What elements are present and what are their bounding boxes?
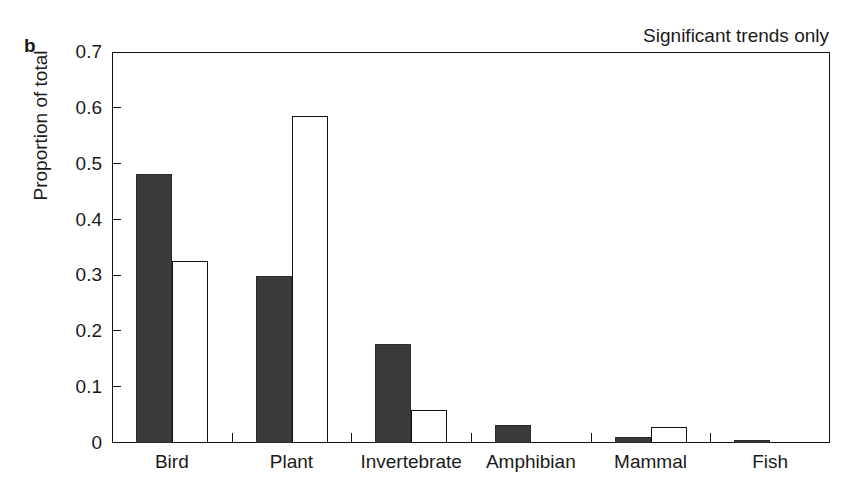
bar-invertebrate-filled	[375, 344, 411, 443]
x-axis-category-label: Amphibian	[486, 452, 576, 471]
chart-title: Significant trends only	[643, 26, 829, 45]
bar-plant-filled	[256, 276, 292, 443]
y-axis-tick-label: 0.2	[42, 321, 102, 340]
x-axis-category-label: Mammal	[614, 452, 687, 471]
x-axis-category-label: Bird	[155, 452, 189, 471]
bar-plant-open	[292, 116, 328, 443]
y-axis-tick-label: 0	[42, 433, 102, 452]
bar-mammal-open	[651, 427, 687, 443]
bar-bird-open	[172, 261, 208, 443]
x-axis-category-label: Fish	[752, 452, 788, 471]
bar-mammal-filled	[615, 437, 651, 443]
y-axis-tick-label: 0.5	[42, 154, 102, 173]
figure-panel-b: b Significant trends only Proportion of …	[0, 0, 859, 492]
bar-amphibian-filled	[495, 425, 531, 443]
y-axis-tick-label: 0.7	[42, 42, 102, 61]
y-axis-tick-label: 0.4	[42, 210, 102, 229]
y-axis-tick-label: 0.6	[42, 98, 102, 117]
bar-bird-filled	[136, 174, 172, 443]
y-axis-tick-label: 0.1	[42, 377, 102, 396]
x-axis-category-label: Plant	[270, 452, 313, 471]
bar-invertebrate-open	[411, 410, 447, 443]
x-axis-category-label: Invertebrate	[360, 452, 461, 471]
bar-fish-filled	[734, 440, 770, 443]
y-axis-tick-label: 0.3	[42, 265, 102, 284]
bars-layer	[112, 52, 830, 443]
